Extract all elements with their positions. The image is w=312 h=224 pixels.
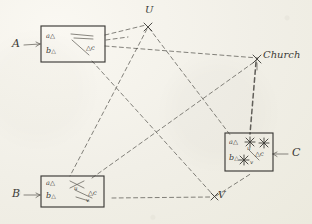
- callout-label-c: C: [292, 147, 300, 158]
- box-a-vertex-a: a△: [46, 33, 55, 40]
- box-c-star-v: [239, 155, 249, 165]
- sightline-U-to-boxC: [149, 28, 231, 136]
- box-b-vertex-b: b△: [46, 192, 56, 200]
- station-tick-U: [144, 23, 152, 31]
- station-tick-church: [253, 55, 261, 63]
- box-b-vertex-c: △c: [88, 190, 97, 197]
- sightline-U-to-boxB: [70, 29, 147, 176]
- triangle-icon: △: [234, 154, 239, 161]
- box-b-mark-label-u: u: [74, 186, 78, 192]
- callout-arrows: [24, 42, 288, 198]
- callout-label-a: A: [12, 38, 20, 49]
- callout-arrow-A: [24, 44, 40, 45]
- callout-label-b: B: [12, 188, 20, 199]
- sightline-church-to-boxC: [250, 62, 256, 134]
- station-marks: [144, 23, 261, 200]
- station-label-church: Church: [263, 50, 300, 60]
- box-c-vertex-b: b△: [229, 154, 239, 162]
- box-a-vertex-b: b△: [46, 47, 56, 55]
- sight-line-group: [70, 25, 258, 198]
- box-a-vertex-c: △c: [86, 45, 95, 52]
- box-c-mark-label-v: v: [250, 160, 253, 166]
- triangle-icon: △: [233, 138, 238, 146]
- triangle-icon: △: [50, 32, 55, 40]
- triangle-icon: △: [51, 192, 56, 199]
- sightline-boxA-to-V: [92, 61, 214, 196]
- box-b-vertex-a: a△: [46, 180, 55, 187]
- station-label-v: V: [218, 190, 225, 200]
- box-c-mark-label-u: u: [247, 146, 251, 152]
- triangle-icon: △: [50, 179, 55, 187]
- box-a-hatch-1: [71, 34, 93, 36]
- triangle-icon: △: [51, 47, 56, 54]
- box-b-mark-label-v: v: [86, 198, 89, 204]
- sightline-boxA-to-church: [105, 46, 258, 58]
- box-c-vertex-c: △c: [255, 151, 264, 158]
- station-label-u: U: [145, 5, 153, 15]
- box-b-vertex-c-text: c: [93, 189, 97, 197]
- box-c-star-right: [259, 138, 269, 148]
- sightline-boxA-to-U: [105, 25, 146, 35]
- sightline-boxB-to-V: [112, 197, 211, 198]
- box-c-vertex-a: a△: [229, 139, 238, 146]
- box-a-vertex-c-text: c: [91, 44, 95, 52]
- sightline-boxA-right-stub: [106, 37, 128, 40]
- box-c-vertex-c-text: c: [260, 150, 264, 158]
- box-a-hatch-2: [74, 38, 93, 39]
- station-tick-V: [211, 193, 218, 200]
